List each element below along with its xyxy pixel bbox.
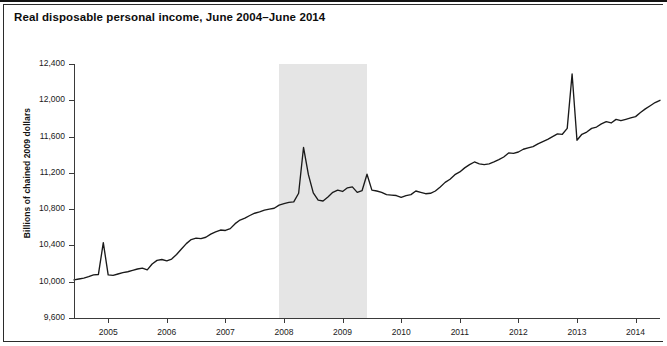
chart-figure: Real disposable personal income, June 20… bbox=[0, 0, 667, 346]
x-tick-label: 2010 bbox=[392, 327, 411, 337]
plot-area bbox=[74, 64, 660, 318]
y-tick-label: 12,000 bbox=[39, 94, 65, 104]
x-tick-label: 2008 bbox=[275, 327, 294, 337]
x-tick-label: 2009 bbox=[333, 327, 352, 337]
x-tick-label: 2006 bbox=[157, 327, 176, 337]
income-line-series bbox=[74, 64, 660, 318]
y-axis-label: Billions of chained 2009 dollars bbox=[22, 83, 32, 263]
y-tick-label: 11,200 bbox=[40, 167, 65, 177]
y-tick-label: 10,800 bbox=[39, 203, 65, 213]
y-tick-label: 9,600 bbox=[44, 312, 65, 322]
page-title: Real disposable personal income, June 20… bbox=[14, 11, 325, 23]
y-tick-label: 11,600 bbox=[40, 131, 65, 141]
x-tick-label: 2014 bbox=[626, 327, 645, 337]
x-tick-label: 2013 bbox=[568, 327, 587, 337]
y-axis-line bbox=[74, 64, 75, 319]
x-tick-label: 2007 bbox=[216, 327, 235, 337]
y-tick-label: 12,400 bbox=[39, 58, 65, 68]
x-axis-line bbox=[74, 318, 660, 319]
x-tick-label: 2011 bbox=[451, 327, 469, 337]
top-rule bbox=[0, 0, 667, 2]
y-tick-label: 10,400 bbox=[39, 239, 65, 249]
x-tick-label: 2012 bbox=[509, 327, 528, 337]
x-tick-label: 2005 bbox=[99, 327, 118, 337]
y-tick-label: 10,000 bbox=[39, 276, 65, 286]
